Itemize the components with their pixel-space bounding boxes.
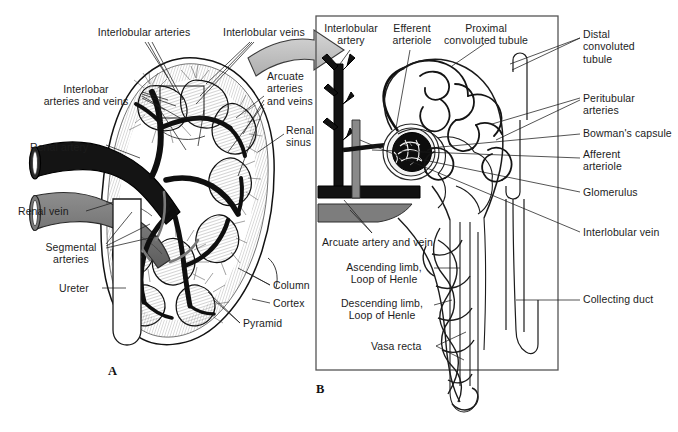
figure-artwork [0, 0, 678, 432]
label-glomerulus: Glomerulus [583, 186, 659, 198]
label-proximal-convoluted-tubule: Proximal convoluted tubule [438, 22, 534, 47]
label-interlobular-arteries: Interlobular arteries [84, 26, 204, 38]
ureter-structure [113, 199, 141, 345]
label-distal-convoluted-tubule: Distal convoluted tubule [583, 28, 663, 65]
label-renal-sinus: Renal sinus [286, 124, 328, 149]
panel-letter-b: B [316, 382, 324, 397]
label-renal-artery: Renal artery [30, 141, 106, 153]
panel-letter-a: A [108, 364, 117, 379]
label-vasa-recta: Vasa recta [371, 340, 433, 352]
label-cortex: Cortex [273, 297, 317, 309]
panel-b-nephron [316, 16, 580, 412]
anatomy-figure: Interlobular arteries Interlobular veins… [0, 0, 678, 432]
label-interlobular-veins: Interlobular veins [212, 26, 316, 38]
label-ascending-limb-loop-of-henle: Ascending limb, Loop of Henle [338, 261, 430, 286]
label-arcuate-arteries-and-veins: Arcuate arteries and veins [267, 70, 323, 107]
label-interlobular-artery: Interlobular artery [320, 22, 382, 47]
label-segmental-arteries: Segmental arteries [38, 241, 104, 266]
label-descending-limb-loop-of-henle: Descending limb, Loop of Henle [333, 297, 431, 322]
label-arcuate-artery-and-vein: Arcuate artery and vein [322, 236, 454, 248]
label-peritubular-arteries: Peritubular arteries [583, 92, 663, 117]
label-pyramid: Pyramid [243, 317, 295, 329]
label-collecting-duct: Collecting duct [583, 293, 673, 305]
label-interlobar-arteries-and-veins: Interlobar arteries and veins [33, 83, 139, 108]
label-interlobular-vein: Interlobular vein [583, 226, 675, 238]
label-renal-vein: Renal vein [18, 205, 86, 217]
label-efferent-arteriole: Efferent arteriole [386, 22, 438, 47]
label-column: Column [273, 279, 321, 291]
label-ureter: Ureter [59, 282, 103, 294]
label-afferent-arteriole: Afferent arteriole [583, 148, 647, 173]
label-bowmans-capsule: Bowman's capsule [583, 127, 678, 139]
